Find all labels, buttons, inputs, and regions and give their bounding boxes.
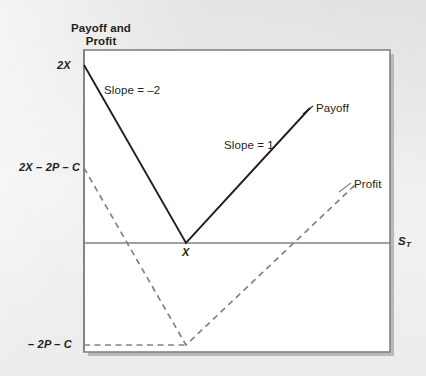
y-tick-label-2x-minus-2p-minus-c: 2X – 2P – C — [19, 161, 80, 174]
x-axis-label-subscript: T — [406, 240, 411, 249]
x-tick-label-strike: X — [182, 246, 189, 259]
payoff-profit-figure: Payoff and Profit 2X 2X – 2P – C – 2P – … — [0, 0, 426, 376]
y-axis-title: Payoff and Profit — [48, 22, 154, 48]
series-label-payoff: Payoff — [316, 102, 349, 115]
y-axis-title-line2: Profit — [86, 35, 117, 47]
x-axis-label-base: S — [398, 235, 406, 247]
y-axis-title-line1: Payoff and — [71, 22, 131, 34]
annotation-slope-1: Slope = 1 — [224, 139, 274, 152]
series-label-profit: Profit — [354, 178, 381, 191]
annotation-slope-minus-2: Slope = –2 — [104, 84, 160, 97]
y-tick-label-2x: 2X — [57, 59, 71, 72]
x-axis-label: ST — [398, 235, 411, 248]
y-tick-label-minus-2p-minus-c: – 2P – C — [28, 338, 72, 351]
